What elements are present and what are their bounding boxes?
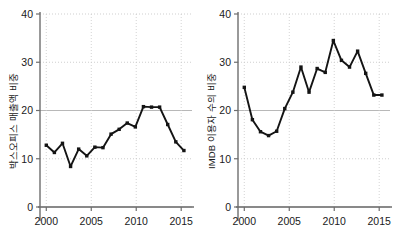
right-panel-data-point-marker: [364, 72, 367, 75]
right-panel-data-line: [244, 41, 382, 136]
left-panel-x-tick-label-2005: 2005: [80, 215, 104, 227]
right-panel-data-point-marker: [267, 134, 270, 137]
left-panel-x-tick-label-2010: 2010: [125, 215, 149, 227]
left-panel-y-tick-label-30: 30: [21, 56, 33, 68]
left-panel-data-point-marker: [109, 132, 112, 135]
right-panel-data-point-marker: [283, 107, 286, 110]
right-panel-data-point-marker: [332, 39, 335, 42]
two-panel-line-chart-figure: 박스오피스 매출액 비중 0102030402000200520102015 I…: [0, 0, 396, 241]
left-panel-y-tick-label-0: 0: [27, 201, 33, 213]
right-panel-data-point-marker: [348, 65, 351, 68]
right-panel-data-point-marker: [372, 93, 375, 96]
left-panel-y-tick-label-10: 10: [21, 153, 33, 165]
right-panel-x-tick-label-2015: 2015: [368, 215, 392, 227]
left-panel-data-point-marker: [117, 128, 120, 131]
left-panel-data-point-marker: [53, 151, 56, 154]
right-panel-data-point-marker: [251, 118, 254, 121]
left-panel-data-line: [46, 107, 184, 167]
left-panel-data-point-marker: [166, 123, 169, 126]
right-panel-y-tick-label-0: 0: [225, 201, 231, 213]
right-panel-data-point-marker: [340, 59, 343, 62]
left-panel-data-point-marker: [77, 147, 80, 150]
right-panel-data-point-marker: [259, 130, 262, 133]
right-panel-data-point-marker: [243, 86, 246, 89]
right-panel-y-tick-label-10: 10: [219, 153, 231, 165]
left-panel-data-point-marker: [134, 125, 137, 128]
left-panel-data-point-marker: [45, 144, 48, 147]
right-panel-data-point-marker: [380, 93, 383, 96]
left-panel-data-point-marker: [142, 105, 145, 108]
right-panel-y-tick-label-20: 20: [219, 104, 231, 116]
left-panel-data-point-marker: [126, 121, 129, 124]
right-panel-data-point-marker: [275, 130, 278, 133]
left-panel-x-tick-label-2015: 2015: [170, 215, 194, 227]
left-panel-data-point-marker: [93, 145, 96, 148]
left-panel-data-point-marker: [174, 140, 177, 143]
left-panel-plot: 0102030402000200520102015: [0, 0, 198, 241]
left-panel-data-point-marker: [101, 146, 104, 149]
right-panel-x-tick-label-2005: 2005: [278, 215, 302, 227]
left-panel-data-point-marker: [85, 154, 88, 157]
left-panel-x-tick-label-2000: 2000: [35, 215, 59, 227]
right-panel-x-tick-label-2010: 2010: [323, 215, 347, 227]
left-panel-y-tick-label-20: 20: [21, 104, 33, 116]
left-panel: 박스오피스 매출액 비중 0102030402000200520102015: [0, 0, 198, 241]
right-panel-data-point-marker: [315, 67, 318, 70]
left-panel-data-point-marker: [69, 165, 72, 168]
left-panel-data-point-marker: [158, 105, 161, 108]
left-panel-data-point-marker: [182, 149, 185, 152]
right-panel-data-point-marker: [299, 65, 302, 68]
left-panel-y-tick-label-40: 40: [21, 8, 33, 20]
right-panel-data-point-marker: [307, 90, 310, 93]
left-panel-data-point-marker: [150, 105, 153, 108]
left-panel-data-point-marker: [61, 142, 64, 145]
right-panel-y-tick-label-40: 40: [219, 8, 231, 20]
right-panel-data-point-marker: [291, 90, 294, 93]
right-panel-plot: 0102030402000200520102015: [198, 0, 396, 241]
right-panel: IMDB 이용자 수의 비중 0102030402000200520102015: [198, 0, 396, 241]
right-panel-data-point-marker: [356, 49, 359, 52]
right-panel-y-tick-label-30: 30: [219, 56, 231, 68]
right-panel-x-tick-label-2000: 2000: [233, 215, 257, 227]
right-panel-data-point-marker: [324, 71, 327, 74]
